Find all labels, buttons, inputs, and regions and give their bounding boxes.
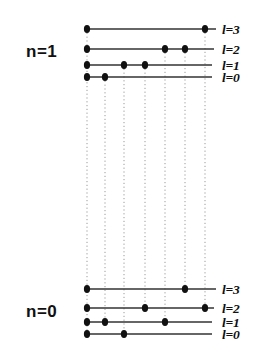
l-quantum-number-label: l=3 (222, 282, 240, 298)
energy-level-diagram: l=3l=2l=1l=0n=1l=3l=2l=1l=0n=0 (0, 0, 268, 359)
occupancy-dot (162, 45, 168, 53)
n-quantum-number-label: n=0 (26, 302, 57, 322)
occupancy-dots-group (84, 25, 208, 338)
l-quantum-number-label: l=0 (222, 70, 240, 86)
occupancy-dot (84, 330, 90, 338)
l-quantum-number-label: l=2 (222, 42, 240, 58)
l-quantum-number-label: l=3 (222, 22, 240, 38)
occupancy-dot (142, 61, 148, 69)
occupancy-dot (84, 285, 90, 293)
l-quantum-number-label: l=0 (222, 327, 240, 343)
occupancy-dot (84, 25, 90, 33)
occupancy-dot (182, 45, 188, 53)
occupancy-dot (121, 61, 127, 69)
n-quantum-number-label: n=1 (26, 42, 57, 62)
occupancy-dot (202, 25, 208, 33)
occupancy-dot (102, 318, 108, 326)
occupancy-dot (121, 330, 127, 338)
occupancy-dot (84, 45, 90, 53)
occupancy-dot (162, 318, 168, 326)
occupancy-dot (182, 285, 188, 293)
occupancy-dot (84, 304, 90, 312)
occupancy-dot (142, 304, 148, 312)
occupancy-dot (84, 73, 90, 81)
occupancy-dot (84, 61, 90, 69)
occupancy-dot (102, 73, 108, 81)
occupancy-dot (202, 304, 208, 312)
occupancy-dot (84, 318, 90, 326)
